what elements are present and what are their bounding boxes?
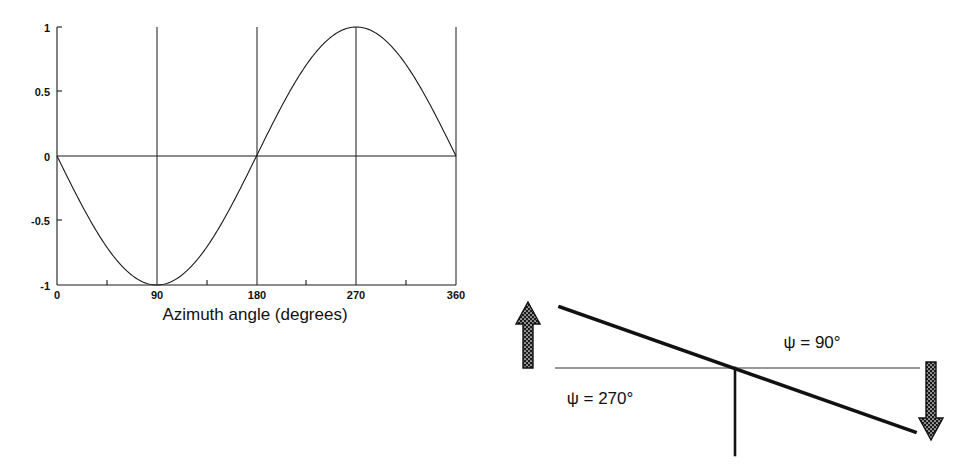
chart-svg: 1 0.5 0 -0.5 -1 0 90 180 270 360 Azimuth… xyxy=(0,0,500,330)
y-tick-label-minus-0-5: -0.5 xyxy=(31,215,50,227)
x-tick-label-180: 180 xyxy=(248,289,266,301)
y-tick-label-0: 0 xyxy=(44,151,50,163)
diagram-svg: ψ = 90° ψ = 270° xyxy=(490,280,966,466)
label-psi-270: ψ = 270° xyxy=(567,389,634,408)
tilted-beam-line xyxy=(560,307,915,432)
figure-root: 1 0.5 0 -0.5 -1 0 90 180 270 360 Azimuth… xyxy=(0,0,966,466)
x-tick-label-360: 360 xyxy=(447,289,465,301)
x-tick-label-0: 0 xyxy=(54,289,60,301)
beam-tilt-diagram: ψ = 90° ψ = 270° xyxy=(490,280,966,466)
y-tick-label-1: 1 xyxy=(44,22,50,34)
down-arrow-icon xyxy=(919,362,943,440)
x-axis-title: Azimuth angle (degrees) xyxy=(162,305,347,324)
y-tick-label-0-5: 0.5 xyxy=(35,86,50,98)
x-tick-label-270: 270 xyxy=(347,289,365,301)
up-arrow-icon xyxy=(516,302,540,368)
label-psi-90: ψ = 90° xyxy=(783,333,840,352)
y-tick-label-minus-1: -1 xyxy=(40,280,50,292)
azimuth-angle-chart: 1 0.5 0 -0.5 -1 0 90 180 270 360 Azimuth… xyxy=(0,0,500,330)
x-tick-label-90: 90 xyxy=(151,289,163,301)
